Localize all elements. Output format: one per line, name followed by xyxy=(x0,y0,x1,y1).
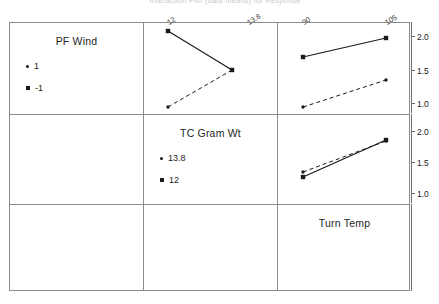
y-tick-label: 2.0 xyxy=(417,128,429,136)
panel-tc-gram-wt-diagonal: TC Gram Wt 13.8 12 xyxy=(144,115,277,204)
panel-matrix: PF Wind 1 -1 xyxy=(9,22,410,291)
y-tick-row1-1: 1.5 xyxy=(411,70,429,71)
chart-title: Interaction Plot (data means) for Respon… xyxy=(95,0,355,8)
legend-item: -1 xyxy=(26,83,43,93)
y-tick-label: 2.0 xyxy=(417,33,429,41)
interaction-plot-matrix: Interaction Plot (data means) for Respon… xyxy=(0,0,439,304)
panel-r3c1-empty xyxy=(10,205,143,292)
legend-label: -1 xyxy=(35,84,43,93)
y-axis-row-3 xyxy=(411,204,437,291)
panel-pf-wind-diagonal: PF Wind 1 -1 xyxy=(10,23,143,114)
y-tick-row1-2: 2.0 xyxy=(411,36,429,37)
panel-r1c3-pfwind-by-turntemp xyxy=(278,23,411,114)
y-tick-row1-0: 1.0 xyxy=(411,103,429,104)
y-tick-row2-1: 1.5 xyxy=(411,162,429,163)
series-marker-dot xyxy=(166,105,169,108)
y-tick-mark xyxy=(411,131,415,132)
y-tick-row2-2: 2.0 xyxy=(411,131,429,132)
panel-turn-temp-diagonal: Turn Temp xyxy=(278,205,411,292)
legend-label: 13.8 xyxy=(168,154,186,163)
panel-label-pf-wind: PF Wind xyxy=(10,35,143,47)
series-line-dashed xyxy=(303,80,386,107)
y-tick-row2-0: 1.0 xyxy=(411,193,429,194)
legend-tc-gram-wt: 13.8 12 xyxy=(160,153,186,185)
series-marker-square xyxy=(384,138,388,142)
y-tick-mark xyxy=(411,193,415,194)
legend-dot-marker-icon xyxy=(26,65,29,68)
series-marker-square xyxy=(384,36,388,40)
panel-r2c1-empty xyxy=(10,115,143,204)
legend-square-marker-icon xyxy=(26,86,30,90)
legend-square-marker-icon xyxy=(160,178,164,182)
series-marker-square xyxy=(301,55,305,59)
panel-r1c3-svg xyxy=(278,23,411,114)
panel-label-turn-temp: Turn Temp xyxy=(278,217,411,229)
y-tick-label: 1.0 xyxy=(417,100,429,108)
y-tick-mark xyxy=(411,70,415,71)
series-marker-square xyxy=(166,29,170,33)
legend-item: 1 xyxy=(26,61,43,71)
legend-pf-wind: 1 -1 xyxy=(26,61,43,93)
panel-r3c2-empty xyxy=(144,205,277,292)
series-line-solid xyxy=(303,38,386,57)
series-line-solid xyxy=(168,31,232,70)
y-axis-row-2: 2.0 1.5 1.0 xyxy=(411,114,437,203)
legend-dot-marker-icon xyxy=(160,157,163,160)
legend-label: 1 xyxy=(34,62,39,71)
y-tick-mark xyxy=(411,162,415,163)
panel-r1c2-svg xyxy=(144,23,277,114)
legend-label: 12 xyxy=(169,176,179,185)
panel-r2c3-tcgramwt-by-turntemp xyxy=(278,115,411,204)
y-tick-label: 1.5 xyxy=(417,67,429,75)
y-tick-label: 1.0 xyxy=(417,190,429,198)
y-tick-mark xyxy=(411,103,415,104)
legend-item: 13.8 xyxy=(160,153,186,163)
y-axis-row-1: 2.0 1.5 1.0 xyxy=(411,22,437,113)
series-line-solid xyxy=(303,140,386,177)
panel-r1c2-pfwind-by-tcgramwt xyxy=(144,23,277,114)
panel-r2c3-svg xyxy=(278,115,411,204)
panel-label-tc-gram-wt: TC Gram Wt xyxy=(144,127,277,139)
y-axis-spine xyxy=(411,204,412,291)
legend-item: 12 xyxy=(160,175,186,185)
y-tick-label: 1.5 xyxy=(417,159,429,167)
series-marker-dot xyxy=(384,78,387,81)
series-marker-dot xyxy=(301,105,304,108)
series-marker-dot xyxy=(230,68,233,71)
y-axis-spine xyxy=(411,114,412,203)
series-marker-dot xyxy=(301,170,304,173)
series-line-dashed xyxy=(168,70,232,107)
y-tick-mark xyxy=(411,36,415,37)
series-marker-square xyxy=(301,175,305,179)
